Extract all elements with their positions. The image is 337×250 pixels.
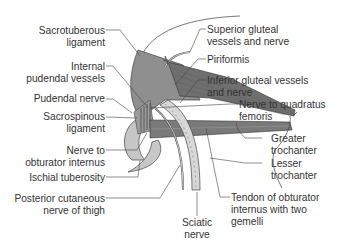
label-nerve-to-quadratus-femoris: Nerve to quadratus femoris: [239, 99, 326, 123]
label-line: Piriformis: [207, 54, 249, 66]
label-line: Sacrospinous: [43, 111, 105, 123]
label-tendon-of-obturator-internus: Tendon of obturator internus with two ge…: [231, 192, 319, 228]
label-line: Nerve to: [25, 145, 105, 157]
label-line: vessels and nerve: [207, 36, 289, 48]
label-line: nerve of thigh: [14, 205, 105, 217]
label-line: Sciatic: [172, 217, 222, 229]
label-line: internus with two: [231, 204, 319, 216]
label-lesser-trochanter: Lesser trochanter: [271, 158, 317, 182]
label-line: trochanter: [271, 145, 317, 157]
label-posterior-cutaneous-nerve: Posterior cutaneous nerve of thigh: [14, 193, 105, 217]
label-line: femoris: [239, 111, 326, 123]
label-line: Posterior cutaneous: [14, 193, 105, 205]
label-line: Nerve to quadratus: [239, 99, 326, 111]
label-line: ligament: [43, 123, 105, 135]
label-line: Superior gluteal: [207, 24, 289, 36]
label-line: trochanter: [271, 170, 317, 182]
label-piriformis: Piriformis: [207, 54, 249, 66]
label-line: and nerve: [207, 87, 308, 99]
label-line: Ischial tuberosity: [29, 172, 105, 184]
label-line: pudendal vessels: [26, 73, 105, 85]
label-line: Lesser: [271, 158, 317, 170]
label-nerve-to-obturator-internus: Nerve to obturator internus: [25, 145, 105, 169]
label-line: ligament: [39, 37, 105, 49]
label-line: nerve: [172, 229, 222, 241]
sciatic-nerve-shape: [160, 100, 200, 190]
label-ischial-tuberosity: Ischial tuberosity: [29, 172, 105, 184]
label-inferior-gluteal-vessels: Inferior gluteal vessels and nerve: [207, 75, 308, 99]
label-line: Pudendal nerve: [34, 93, 105, 105]
label-line: gemelli: [231, 216, 319, 228]
label-sacrotuberous-ligament: Sacrotuberous ligament: [39, 25, 105, 49]
label-internal-pudendal-vessels: Internal pudendal vessels: [26, 61, 105, 85]
label-sciatic-nerve: Sciatic nerve: [172, 217, 222, 241]
label-line: Inferior gluteal vessels: [207, 75, 308, 87]
label-line: Tendon of obturator: [231, 192, 319, 204]
label-pudendal-nerve: Pudendal nerve: [34, 93, 105, 105]
label-superior-gluteal-vessels: Superior gluteal vessels and nerve: [207, 24, 289, 48]
label-line: Greater: [271, 133, 317, 145]
label-line: Sacrotuberous: [39, 25, 105, 37]
label-line: Internal: [26, 61, 105, 73]
label-sacrospinous-ligament: Sacrospinous ligament: [43, 111, 105, 135]
label-greater-trochanter: Greater trochanter: [271, 133, 317, 157]
label-line: obturator internus: [25, 157, 105, 169]
